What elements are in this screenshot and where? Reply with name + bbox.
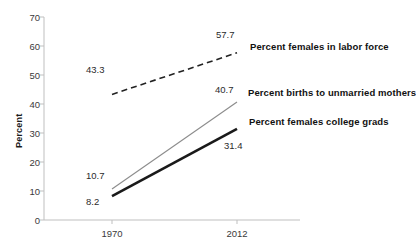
- x-tick-2012: 2012: [217, 228, 257, 239]
- value-label-births-2012: 40.7: [215, 84, 234, 95]
- value-label-births-1970: 10.7: [86, 170, 105, 181]
- series-line-college-grads: [112, 129, 237, 196]
- value-label-labor-2012: 57.7: [216, 29, 235, 40]
- legend-label-unmarried-mothers: Percent births to unmarried mothers: [248, 87, 416, 98]
- legend-label-labor-force: Percent females in labor force: [250, 41, 389, 52]
- value-label-grads-2012: 31.4: [224, 140, 243, 151]
- value-label-grads-1970: 8.2: [86, 196, 99, 207]
- x-tick-1970: 1970: [92, 228, 132, 239]
- series-line-unmarried-mothers: [112, 102, 237, 189]
- legend-label-college-grads: Percent females college grads: [249, 116, 389, 127]
- value-label-labor-1970: 43.3: [86, 64, 105, 75]
